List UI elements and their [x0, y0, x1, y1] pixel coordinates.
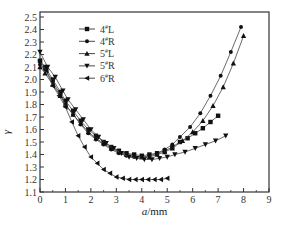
y-tick-label: 2.3 — [25, 37, 38, 48]
data-point-marker — [201, 126, 205, 130]
x-tick-label: 4 — [139, 194, 144, 205]
plot-frame — [40, 12, 269, 192]
series-group — [37, 25, 246, 182]
y-tick-label: 1.2 — [25, 174, 38, 185]
data-point-marker — [114, 174, 119, 179]
data-point-marker — [241, 33, 246, 38]
data-point-marker — [37, 50, 42, 55]
legend: 4#L4#R5#L5#R6#R — [79, 24, 115, 84]
data-point-marker — [203, 142, 208, 147]
y-tick-label: 1.8 — [25, 99, 38, 110]
legend-item: 4#L — [79, 24, 114, 35]
y-axis-label: γ — [0, 129, 12, 134]
y-tick-label: 1.3 — [25, 162, 38, 173]
y-tick-label: 2.5 — [25, 12, 38, 23]
x-tick-label: 3 — [114, 194, 119, 205]
data-point-marker — [200, 118, 205, 123]
legend-label: 4#L — [100, 24, 114, 35]
data-point-marker — [133, 177, 138, 182]
legend-label: 5#L — [100, 48, 114, 59]
y-tick-label: 1.9 — [25, 87, 38, 98]
data-point-marker — [69, 119, 74, 124]
data-point-marker — [239, 25, 243, 29]
legend-label: 5#R — [100, 60, 115, 71]
data-point-marker — [216, 114, 220, 118]
x-axis-label: a/mm — [142, 205, 168, 217]
y-tick-label: 2.1 — [25, 62, 38, 73]
x-tick-label: 9 — [267, 194, 272, 205]
legend-item: 4#R — [79, 36, 115, 47]
y-tick-label: 1.6 — [25, 124, 38, 135]
axes: 01234567891.11.21.31.41.51.61.71.81.92.0… — [0, 12, 272, 218]
data-point-marker — [208, 120, 212, 124]
x-tick-label: 1 — [63, 194, 68, 205]
data-point-marker — [76, 133, 81, 138]
data-point-marker — [82, 144, 87, 149]
y-tick-label: 1.7 — [25, 112, 38, 123]
data-point-marker — [139, 177, 144, 182]
series-4r — [38, 25, 243, 159]
data-point-marker — [126, 177, 131, 182]
x-tick-label: 8 — [241, 194, 246, 205]
y-tick-label: 1.1 — [25, 187, 38, 198]
legend-label: 6#R — [100, 73, 115, 84]
x-tick-label: 5 — [165, 194, 170, 205]
x-tick-label: 7 — [216, 194, 221, 205]
legend-item: 5#R — [79, 60, 115, 71]
data-point-marker — [231, 61, 236, 66]
data-point-marker — [107, 171, 112, 176]
x-tick-label: 0 — [38, 194, 43, 205]
line-chart: 01234567891.11.21.31.41.51.61.71.81.92.0… — [0, 0, 283, 225]
x-tick-label: 6 — [190, 194, 195, 205]
series-line — [40, 27, 241, 157]
y-tick-label: 1.5 — [25, 137, 38, 148]
data-point-marker — [165, 176, 170, 181]
y-tick-label: 2.4 — [25, 24, 38, 35]
data-point-marker — [193, 146, 198, 151]
data-point-marker — [213, 139, 218, 144]
data-point-marker — [210, 103, 215, 108]
data-point-marker — [198, 111, 202, 115]
data-point-marker — [85, 39, 89, 43]
legend-item: 6#R — [79, 73, 115, 84]
data-point-marker — [188, 125, 192, 129]
y-tick-label: 2.0 — [25, 74, 38, 85]
x-tick-label: 2 — [88, 194, 93, 205]
data-point-marker — [178, 135, 182, 139]
data-point-marker — [221, 84, 226, 89]
data-point-marker — [85, 27, 89, 31]
data-point-marker — [152, 177, 157, 182]
legend-label: 4#R — [100, 36, 115, 47]
data-point-marker — [88, 154, 93, 159]
data-point-marker — [223, 134, 228, 139]
data-point-marker — [145, 177, 150, 182]
data-point-marker — [120, 176, 125, 181]
y-tick-label: 1.4 — [25, 149, 38, 160]
data-point-marker — [208, 94, 212, 98]
y-tick-label: 2.2 — [25, 49, 38, 60]
data-point-marker — [229, 50, 233, 54]
series-line — [40, 36, 244, 157]
data-point-marker — [158, 177, 163, 182]
data-point-marker — [219, 74, 223, 78]
series-line — [40, 52, 226, 160]
data-point-marker — [84, 76, 89, 81]
legend-item: 5#L — [79, 48, 114, 59]
